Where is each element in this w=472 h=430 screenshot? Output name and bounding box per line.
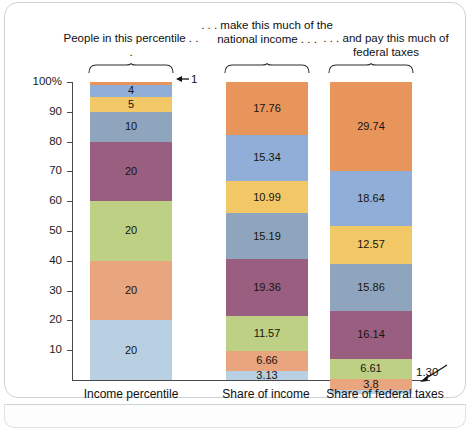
- bar-segment: 20: [90, 142, 172, 202]
- y-axis-tick-label-10: 10: [2, 344, 62, 355]
- y-axis-tick-10: [67, 350, 73, 351]
- annotation-top-one-percent-label: 1: [191, 73, 197, 85]
- annotation-bottom-federal-taxes-label: 1.30: [416, 366, 438, 378]
- stacked-bar-chart: People in this percentile . . . . . . ma…: [0, 0, 472, 430]
- bar-segment-value: 18.64: [357, 193, 385, 204]
- y-axis-tick-60: [67, 201, 73, 202]
- y-axis-tick-70: [67, 171, 73, 172]
- bar-share-of-federal-taxes: 29.7418.6412.5715.8616.146.613.81.30: [330, 82, 412, 380]
- bar-segment-value: 5: [128, 99, 134, 110]
- bar-segment: 19.36: [226, 259, 308, 317]
- brace-icon-column-3: [328, 63, 414, 74]
- y-axis-tick-label-80: 80: [2, 136, 62, 147]
- bar-segment-value: 29.74: [357, 121, 385, 132]
- y-axis-tick-label-70: 70: [2, 165, 62, 176]
- bar-segment: 20: [90, 261, 172, 321]
- bar-segment: 10.99: [226, 181, 308, 214]
- bar-segment-value: 15.19: [253, 231, 281, 242]
- bar-segment: 10: [90, 112, 172, 142]
- y-axis-tick-100: [67, 82, 73, 83]
- annotation-top-one-percent: 1: [176, 73, 197, 85]
- brace-icon-column-1: [88, 63, 174, 74]
- y-axis-tick-20: [67, 320, 73, 321]
- bar-segment: 11.57: [226, 316, 308, 350]
- y-axis-tick-50: [67, 231, 73, 232]
- category-label-income-percentile: Income percentile: [61, 387, 201, 401]
- bar-segment: 20: [90, 201, 172, 261]
- bar-segment: 6.61: [330, 359, 412, 379]
- bar-income-percentile: 1451020202020: [90, 82, 172, 380]
- y-axis-tick-30: [67, 291, 73, 292]
- bar-segment: 17.76: [226, 82, 308, 135]
- bar-segment-value: 12.57: [357, 239, 385, 250]
- y-axis-tick-label-50: 50: [2, 225, 62, 236]
- bar-segment-value: 20: [125, 225, 137, 236]
- bar-segment: 15.34: [226, 135, 308, 181]
- bar-segment-value: 11.57: [254, 328, 281, 339]
- left-arrow-icon: [176, 74, 190, 84]
- bar-share-of-income: 17.7615.3410.9915.1919.3611.576.663.13: [226, 82, 308, 380]
- bar-segment-value: 6.61: [360, 363, 381, 374]
- y-axis-tick-label-30: 30: [2, 285, 62, 296]
- category-label-share-of-federal-taxes: Share of federal taxes: [300, 387, 470, 401]
- bar-segment: 16.14: [330, 311, 412, 359]
- bar-segment-value: 20: [125, 166, 137, 177]
- bar-segment-value: 6.66: [256, 355, 277, 366]
- y-axis-tick-40: [67, 261, 73, 262]
- bar-segment: 12.57: [330, 226, 412, 263]
- y-axis-tick-label-40: 40: [2, 255, 62, 266]
- bar-segment-value: 20: [125, 345, 137, 356]
- bar-segment: 5: [90, 97, 172, 112]
- bar-segment-value: 16.14: [357, 329, 385, 340]
- bar-segment-value: 4: [128, 85, 134, 96]
- bar-segment-value: 17.76: [253, 103, 281, 114]
- y-axis-tick-80: [67, 142, 73, 143]
- bar-segment: 4: [90, 85, 172, 97]
- bar-segment-value: 10.99: [253, 192, 281, 203]
- bar-segment-value: 10: [125, 121, 137, 132]
- y-axis-tick-90: [67, 112, 73, 113]
- bar-segment: 15.19: [226, 213, 308, 258]
- bar-segment-value: 15.86: [357, 282, 385, 293]
- bar-segment-value: 20: [125, 285, 137, 296]
- y-axis-tick-label-100: 100%: [2, 76, 62, 87]
- bar-segment: 6.66: [226, 351, 308, 371]
- bar-segment: 15.86: [330, 264, 412, 311]
- y-axis-tick-label-90: 90: [2, 106, 62, 117]
- brace-icon-column-2: [224, 63, 310, 74]
- column-heading-income-percentile: People in this percentile . . .: [62, 32, 200, 59]
- bar-segment-value: 3.13: [256, 370, 277, 381]
- y-axis-tick-label-20: 20: [2, 314, 62, 325]
- bar-segment: 29.74: [330, 82, 412, 171]
- bar-segment: 18.64: [330, 171, 412, 227]
- bar-segment-value: 19.36: [253, 282, 281, 293]
- column-heading-share-of-federal-taxes: . . . and pay this much of federal taxes: [306, 32, 466, 59]
- y-axis-tick-label-60: 60: [2, 195, 62, 206]
- bar-segment: 3.13: [226, 371, 308, 380]
- bar-segment-value: 15.34: [253, 152, 281, 163]
- bar-segment: 20: [90, 320, 172, 380]
